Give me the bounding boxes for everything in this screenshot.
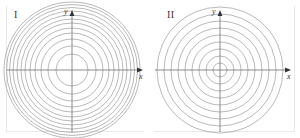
- panel-1-x-axis-label: x: [139, 73, 143, 81]
- panel-1-plot: [0, 0, 150, 138]
- panel-1-label: I: [14, 10, 18, 20]
- panel-2-x-axis-label: x: [287, 73, 291, 81]
- panel-2-label: II: [167, 10, 174, 20]
- panel-2-plot: [150, 0, 300, 138]
- figure-container: I y x II: [0, 0, 300, 138]
- panel-2-y-axis-arrow-icon: [218, 10, 223, 16]
- panel-2-y-axis-label: y: [212, 8, 216, 16]
- contour-panel-1: I y x: [0, 0, 150, 138]
- contour-panel-2: II y x: [150, 0, 300, 138]
- panel-1-y-axis-label: y: [64, 8, 68, 16]
